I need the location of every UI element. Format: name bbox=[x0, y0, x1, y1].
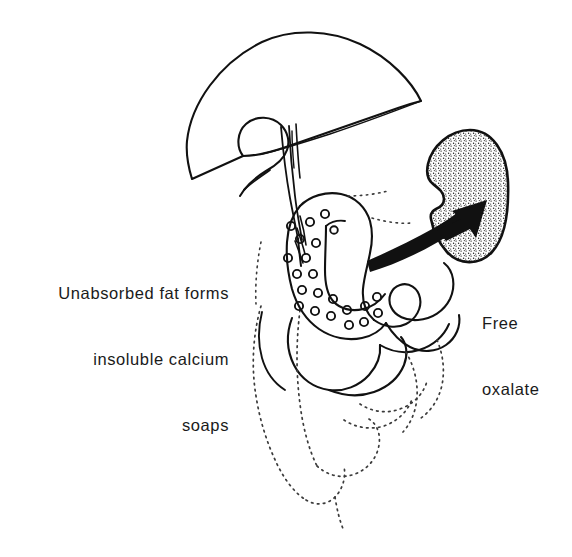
faded-bowel-tail bbox=[335, 497, 344, 531]
faded-bowel-loop-2 bbox=[344, 399, 412, 428]
left-gut-border bbox=[259, 312, 285, 390]
free-oxalate-label: Free oxalate bbox=[482, 268, 568, 444]
fat-globule bbox=[360, 318, 368, 326]
fat-globule bbox=[330, 226, 338, 234]
fat-globule bbox=[374, 309, 382, 317]
fat-globule bbox=[373, 293, 381, 301]
fat-globule bbox=[314, 289, 322, 297]
duodenum-inner-top bbox=[326, 221, 345, 226]
jejunum-loop-upper bbox=[374, 263, 453, 327]
fat-globule bbox=[309, 270, 317, 278]
fat-globule bbox=[345, 321, 353, 329]
faded-bowel-left-inner bbox=[297, 310, 317, 466]
fat-globule bbox=[312, 239, 320, 247]
unabsorbed-fat-label-line-1: Unabsorbed fat forms bbox=[29, 282, 229, 304]
liver-outline bbox=[187, 32, 421, 179]
unabsorbed-fat-label-line-3: soaps bbox=[29, 414, 229, 436]
faded-stomach-edge bbox=[256, 242, 261, 304]
fat-globule bbox=[306, 218, 314, 226]
faded-upper-right-2 bbox=[348, 191, 388, 196]
fat-globule bbox=[311, 307, 319, 315]
faded-bowel-mid bbox=[306, 466, 345, 504]
unabsorbed-fat-label-line-2: insoluble calcium bbox=[29, 348, 229, 370]
fat-globule bbox=[321, 210, 329, 218]
faded-upper-right bbox=[372, 218, 412, 223]
gallbladder-neck bbox=[244, 170, 270, 190]
fat-globule bbox=[302, 254, 310, 262]
bile-duct-right bbox=[296, 124, 300, 178]
ileum-loop-a bbox=[329, 337, 406, 395]
fat-globule bbox=[298, 286, 306, 294]
free-oxalate-label-line-2: oxalate bbox=[482, 378, 568, 400]
kidney-shape bbox=[427, 130, 508, 262]
fat-globule bbox=[327, 312, 335, 320]
jejunum-loop-lower bbox=[288, 318, 380, 390]
unabsorbed-fat-label: Unabsorbed fat forms insoluble calcium s… bbox=[29, 238, 229, 480]
free-oxalate-label-line-1: Free bbox=[482, 312, 568, 334]
faded-bowel-loop-1 bbox=[317, 418, 379, 476]
fat-globule bbox=[293, 270, 301, 278]
figure-root: Unabsorbed fat forms insoluble calcium s… bbox=[0, 0, 572, 557]
